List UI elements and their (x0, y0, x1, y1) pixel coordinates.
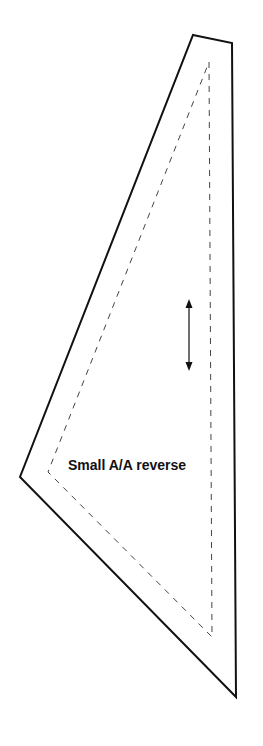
pattern-piece-drawing (0, 0, 263, 746)
pattern-piece-canvas: Small A/A reverse (0, 0, 263, 746)
grainline-arrow-icon (186, 299, 193, 371)
pattern-piece-label: Small A/A reverse (68, 456, 186, 474)
cut-line-outline (20, 35, 236, 697)
seam-line-dashed (48, 62, 212, 637)
